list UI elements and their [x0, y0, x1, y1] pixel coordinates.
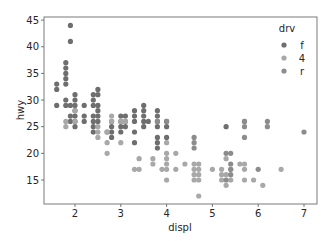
data-point-four [123, 119, 128, 124]
data-point-four [260, 183, 265, 188]
legend-marker-icon [281, 55, 286, 60]
data-point-f [91, 103, 96, 108]
x-tick-label: 3 [118, 208, 124, 219]
data-point-f [95, 87, 100, 92]
data-point-four [159, 167, 164, 172]
legend-marker-icon [281, 68, 286, 73]
data-point-r [192, 145, 197, 150]
data-point-f [141, 108, 146, 113]
data-point-f [132, 119, 137, 124]
data-point-four [118, 119, 123, 124]
data-point-four [182, 161, 187, 166]
y-tick-label: 30 [26, 95, 39, 106]
data-point-f [95, 103, 100, 108]
data-point-f [141, 124, 146, 129]
data-point-f [155, 140, 160, 145]
data-point-four [219, 177, 224, 182]
data-point-f [118, 129, 123, 134]
data-point-f [146, 119, 151, 124]
data-point-r [228, 172, 233, 177]
data-point-f [91, 129, 96, 134]
data-point-f [54, 87, 59, 92]
data-point-four [196, 172, 201, 177]
y-tick-label: 25 [26, 121, 39, 132]
data-point-f [155, 135, 160, 140]
data-point-four [164, 167, 169, 172]
data-point-four [224, 183, 229, 188]
data-point-r [242, 135, 247, 140]
data-point-four [224, 156, 229, 161]
data-point-four [105, 140, 110, 145]
data-point-f [91, 119, 96, 124]
data-point-f [132, 140, 137, 145]
data-point-r [242, 119, 247, 124]
data-point-f [155, 145, 160, 150]
data-point-four [105, 129, 110, 134]
data-point-f [132, 113, 137, 118]
data-point-f [54, 103, 59, 108]
data-point-r [265, 119, 270, 124]
data-point-r [228, 151, 233, 156]
x-tick-label: 5 [209, 208, 215, 219]
data-point-f [68, 23, 73, 28]
data-point-four [224, 172, 229, 177]
data-point-four [164, 177, 169, 182]
data-point-f [72, 103, 77, 108]
data-point-four [251, 177, 256, 182]
x-tick-label: 2 [72, 208, 78, 219]
y-tick-label: 20 [26, 148, 39, 159]
data-point-four [196, 193, 201, 198]
data-point-four [242, 167, 247, 172]
data-point-r [256, 167, 261, 172]
data-point-f [63, 60, 68, 65]
data-point-f [68, 39, 73, 44]
y-tick-label: 15 [26, 175, 39, 186]
data-point-four [210, 167, 215, 172]
data-point-f [68, 119, 73, 124]
data-point-f [63, 103, 68, 108]
data-point-f [155, 124, 160, 129]
data-point-four [237, 161, 242, 166]
data-point-f [63, 71, 68, 76]
legend-label: 4 [299, 53, 305, 64]
data-point-four [192, 167, 197, 172]
data-point-f [95, 113, 100, 118]
data-point-f [95, 119, 100, 124]
data-point-f [63, 66, 68, 71]
data-point-r [224, 151, 229, 156]
data-point-f [164, 135, 169, 140]
data-point-f [109, 124, 114, 129]
data-point-f [82, 113, 87, 118]
data-point-four [173, 167, 178, 172]
data-point-f [91, 92, 96, 97]
data-point-four [132, 167, 137, 172]
data-point-f [141, 113, 146, 118]
data-point-four [196, 167, 201, 172]
data-point-f [63, 76, 68, 81]
data-point-f [91, 113, 96, 118]
data-point-four [164, 140, 169, 145]
data-point-four [72, 108, 77, 113]
data-point-r [301, 129, 306, 134]
data-point-f [91, 124, 96, 129]
data-point-four [219, 172, 224, 177]
data-point-four [95, 124, 100, 129]
data-point-f [118, 113, 123, 118]
data-point-four [109, 119, 114, 124]
data-point-four [63, 124, 68, 129]
data-point-four [192, 172, 197, 177]
data-point-f [123, 124, 128, 129]
legend-title: drv [279, 23, 295, 34]
data-point-r [192, 140, 197, 145]
data-point-four [219, 167, 224, 172]
data-point-four [72, 119, 77, 124]
data-point-f [95, 108, 100, 113]
y-tick-label: 45 [26, 15, 39, 26]
data-point-four [150, 161, 155, 166]
data-point-four [118, 140, 123, 145]
data-point-f [118, 124, 123, 129]
data-point-r [164, 119, 169, 124]
data-point-four [164, 151, 169, 156]
data-point-f [109, 129, 114, 134]
data-point-r [228, 161, 233, 166]
